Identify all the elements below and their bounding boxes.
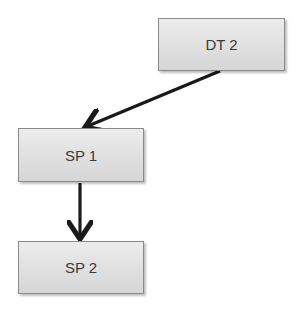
node-dt2: DT 2: [158, 18, 285, 71]
edge-dt2-to-sp1: [88, 71, 220, 126]
node-label: DT 2: [205, 36, 237, 53]
node-label: SP 1: [65, 147, 97, 164]
node-sp2: SP 2: [18, 241, 144, 294]
node-sp1: SP 1: [18, 128, 144, 182]
node-label: SP 2: [65, 259, 97, 276]
